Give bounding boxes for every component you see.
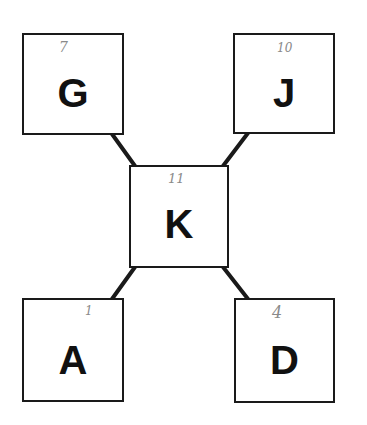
node-note: 4 [272, 305, 282, 321]
node-g: 7 G [22, 33, 124, 135]
node-label: G [24, 73, 122, 113]
edge-k-a [112, 267, 135, 299]
edge-k-d [223, 267, 248, 299]
node-note: 1 [85, 305, 93, 317]
edge-g-k [112, 134, 135, 166]
node-a: 1 A [22, 298, 124, 402]
node-k: 11 K [129, 165, 229, 268]
node-note: 7 [59, 40, 68, 54]
node-label: J [235, 73, 333, 113]
node-d: 4 D [234, 298, 335, 403]
node-note: 11 [168, 172, 185, 185]
node-j: 10 J [233, 33, 335, 134]
edge-j-k [223, 133, 248, 166]
node-note: 10 [277, 42, 292, 54]
node-label: D [236, 340, 333, 380]
node-label: A [24, 340, 122, 380]
node-label: K [131, 204, 227, 244]
